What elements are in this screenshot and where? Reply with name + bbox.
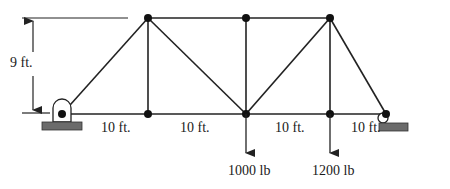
load-label-1000: 1000 lb <box>228 164 270 178</box>
truss-diagram: 9 ft. 10 ft. 10 ft. 10 ft. 10 ft. 1000 l… <box>0 0 450 189</box>
truss-members <box>62 18 386 114</box>
span-label-4: 10 ft. <box>351 121 381 135</box>
truss-drawing <box>0 0 450 189</box>
span-label-2: 10 ft. <box>180 121 210 135</box>
span-label-3: 10 ft. <box>275 121 305 135</box>
truss-nodes <box>58 14 390 118</box>
height-label: 9 ft. <box>10 56 33 70</box>
load-label-1200: 1200 lb <box>312 164 354 178</box>
span-label-1: 10 ft. <box>101 121 131 135</box>
